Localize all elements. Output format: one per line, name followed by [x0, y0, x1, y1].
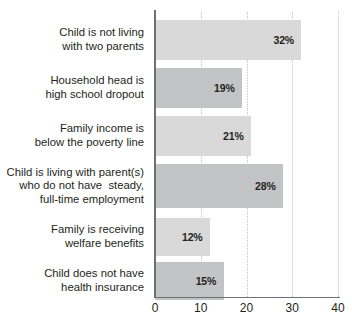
category-label: Household head is high school dropout: [0, 74, 144, 101]
x-axis-tick-label: 0: [140, 301, 170, 315]
x-axis-tick-label: 20: [232, 301, 262, 315]
category-label: Family income is below the poverty line: [0, 122, 144, 149]
bar-value-label: 21%: [223, 130, 244, 142]
x-axis-tick-label: 40: [323, 301, 352, 315]
category-label: Child does not have health insurance: [0, 267, 144, 294]
chart-title-cutoff: [196, 0, 316, 3]
x-axis-line: [154, 297, 340, 298]
bar-value-label: 12%: [182, 231, 203, 243]
bar-chart: Child is not living with two parents Hou…: [0, 0, 352, 320]
bar-value-label: 19%: [214, 82, 235, 94]
bar-value-label: 28%: [255, 180, 276, 192]
y-axis-line: [154, 10, 156, 298]
gridline: [338, 12, 339, 297]
category-label: Child is not living with two parents: [0, 26, 144, 53]
category-labels-column: Child is not living with two parents Hou…: [0, 12, 150, 300]
x-axis-tick-label: 30: [277, 301, 307, 315]
plot-inner: 32%19%21%28%12%15%: [155, 12, 338, 297]
bar-value-label: 15%: [196, 275, 217, 287]
x-axis-tick-label: 10: [186, 301, 216, 315]
bar-value-label: 32%: [273, 34, 294, 46]
category-label: Child is living with parent(s) who do no…: [0, 166, 144, 207]
category-label: Family is receiving welfare benefits: [0, 223, 144, 250]
plot-area: 32%19%21%28%12%15%: [155, 12, 338, 297]
